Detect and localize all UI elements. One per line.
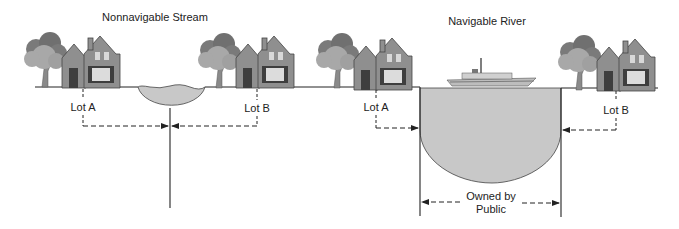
left-panel: Nonnavigable Stream Lot A Lot B xyxy=(24,11,300,208)
stream-shape xyxy=(138,85,205,106)
right-panel-title: Navigable River xyxy=(448,15,526,27)
house-icon xyxy=(62,36,120,88)
boat-icon xyxy=(447,58,536,86)
tree-icon xyxy=(198,33,241,88)
lot-b-label: Lot B xyxy=(603,104,629,116)
tree-icon xyxy=(24,32,67,87)
house-icon xyxy=(236,36,294,88)
river-shape xyxy=(420,88,561,183)
tree-icon xyxy=(316,33,359,88)
right-panel: Navigable River Lot A Lot B Owned by Pub… xyxy=(300,15,658,217)
lot-b-label: Lot B xyxy=(244,102,270,114)
lot-a-label: Lot A xyxy=(363,101,389,113)
house-icon xyxy=(354,38,412,90)
owned-by-public-label-line2: Public xyxy=(476,203,506,215)
riparian-rights-diagram: Nonnavigable Stream Lot A Lot B Navigabl… xyxy=(0,0,679,229)
owned-by-public-label: Owned by xyxy=(466,190,516,202)
house-icon xyxy=(597,39,655,91)
lot-a-label: Lot A xyxy=(70,101,96,113)
left-panel-title: Nonnavigable Stream xyxy=(102,11,208,23)
tree-icon xyxy=(558,35,601,90)
